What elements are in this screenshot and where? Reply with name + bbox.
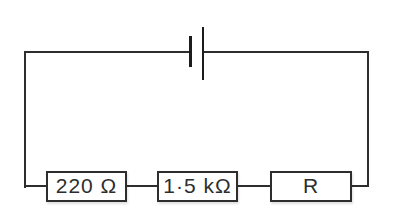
battery-plate-short-thick [189,36,192,67]
resistor-box-1k5-ohm: 1·5 kΩ [157,171,238,202]
resistor-box-r: R [270,171,352,202]
wire-top-right-segment [203,51,369,53]
resistor-label-1k5-ohm: 1·5 kΩ [163,175,231,198]
wire-left-vertical [24,51,26,188]
wire-bottom-segment-right [350,185,369,187]
resistor-label-r: R [303,175,319,198]
resistor-label-220-ohm: 220 Ω [56,175,118,198]
wire-top-left-segment [24,51,191,53]
wire-right-vertical [367,51,369,187]
wire-bottom-segment-left [24,185,47,187]
resistor-box-220-ohm: 220 Ω [46,171,127,202]
battery-plate-long-thin [202,27,204,80]
wire-bottom-segment-mid-1 [126,185,158,187]
wire-bottom-segment-mid-2 [237,185,271,187]
circuit-diagram: 220 Ω 1·5 kΩ R [0,0,394,220]
